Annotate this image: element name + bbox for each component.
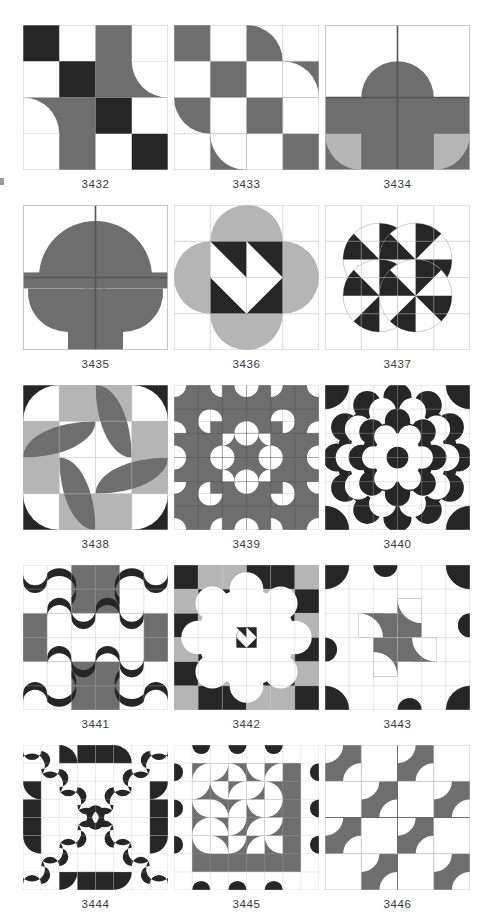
pattern-label-3440: 3440 [384,539,412,551]
pattern-cell-3437: 3437 [322,205,473,385]
pattern-tile-3441 [23,565,168,710]
pattern-tile-3435 [23,205,168,350]
edge-registration-mark [0,178,4,185]
pattern-label-3444: 3444 [82,899,110,911]
pattern-cell-3443: 3443 [322,565,473,745]
pattern-grid: 3432343334343435343634373438343934403441… [0,0,493,920]
pattern-tile-3443 [325,565,470,710]
pattern-sheet: 3432343334343435343634373438343934403441… [0,0,493,920]
pattern-tile-3444 [23,745,168,890]
pattern-cell-3435: 3435 [20,205,171,385]
pattern-tile-3446 [325,745,470,890]
pattern-label-3441: 3441 [82,719,110,731]
pattern-cell-3446: 3446 [322,745,473,920]
pattern-label-3446: 3446 [384,899,412,911]
pattern-tile-3438 [23,385,168,530]
pattern-tile-3442 [174,565,319,710]
pattern-tile-3434 [325,25,470,170]
pattern-cell-3440: 3440 [322,385,473,565]
pattern-tile-3436 [174,205,319,350]
pattern-cell-3438: 3438 [20,385,171,565]
pattern-cell-3444: 3444 [20,745,171,920]
pattern-label-3437: 3437 [384,359,412,371]
pattern-cell-3433: 3433 [171,25,322,205]
pattern-tile-3433 [174,25,319,170]
pattern-cell-3432: 3432 [20,25,171,205]
pattern-label-3443: 3443 [384,719,412,731]
pattern-cell-3436: 3436 [171,205,322,385]
pattern-tile-3440 [325,385,470,530]
pattern-cell-3442: 3442 [171,565,322,745]
pattern-cell-3439: 3439 [171,385,322,565]
pattern-cell-3441: 3441 [20,565,171,745]
pattern-cell-3434: 3434 [322,25,473,205]
pattern-cell-3445: 3445 [171,745,322,920]
pattern-label-3435: 3435 [82,359,110,371]
pattern-tile-3432 [23,25,168,170]
pattern-tile-3439 [174,385,319,530]
pattern-label-3432: 3432 [82,179,110,191]
pattern-label-3439: 3439 [233,539,261,551]
pattern-label-3445: 3445 [233,899,261,911]
pattern-tile-3445 [174,745,319,890]
pattern-label-3442: 3442 [233,719,261,731]
pattern-label-3433: 3433 [233,179,261,191]
pattern-label-3436: 3436 [233,359,261,371]
pattern-tile-3437 [325,205,470,350]
pattern-label-3434: 3434 [384,179,412,191]
pattern-label-3438: 3438 [82,539,110,551]
